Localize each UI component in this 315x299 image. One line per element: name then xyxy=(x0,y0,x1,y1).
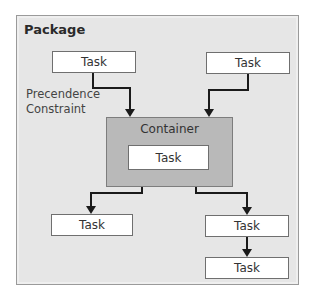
arrowhead-icon xyxy=(204,109,214,117)
arrowhead-icon xyxy=(242,249,252,257)
connector-topright-to-container[interactable] xyxy=(209,74,248,110)
precedence-connectors xyxy=(0,0,315,299)
arrowhead-icon xyxy=(86,206,96,214)
connector-container-to-bottomleft[interactable] xyxy=(91,187,142,207)
arrowhead-icon xyxy=(242,207,252,215)
arrowhead-icon xyxy=(125,109,135,117)
connector-topleft-to-container[interactable] xyxy=(93,73,130,110)
connector-container-to-bottomright[interactable] xyxy=(196,187,247,208)
